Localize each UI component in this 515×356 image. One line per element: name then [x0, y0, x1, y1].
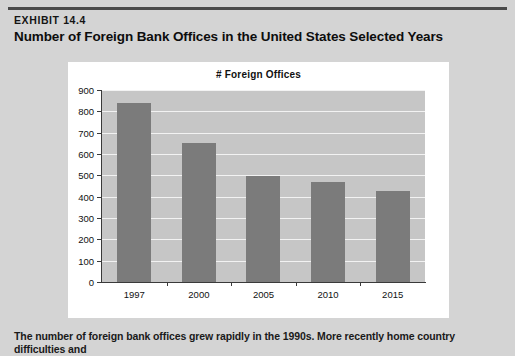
x-axis-label-1997: 1997	[102, 289, 167, 300]
x-axis-tick	[360, 282, 361, 286]
bar-slot	[167, 90, 232, 282]
bar-2015	[376, 191, 410, 282]
y-axis-label: 400	[78, 191, 94, 202]
bar-2010	[311, 182, 345, 282]
y-axis-label: 200	[78, 234, 94, 245]
bar-slot	[102, 90, 167, 282]
x-axis-line	[101, 282, 426, 283]
x-axis-label-2000: 2000	[167, 289, 232, 300]
y-axis-label: 900	[78, 85, 94, 96]
x-axis-tick	[296, 282, 297, 286]
y-axis-tick	[97, 90, 102, 91]
bar-1997	[117, 103, 151, 282]
x-axis-label-2010: 2010	[296, 289, 361, 300]
y-axis-label: 800	[78, 106, 94, 117]
bar-2005	[246, 176, 280, 282]
exhibit-header: EXHIBIT 14.4 Number of Foreign Bank Offi…	[14, 14, 504, 45]
y-axis-line	[101, 90, 102, 283]
x-axis-tick	[167, 282, 168, 286]
y-axis-tick	[97, 282, 102, 283]
y-axis-label: 500	[78, 170, 94, 181]
x-axis-labels: 19972000200520102015	[102, 289, 425, 300]
bar-slot	[231, 90, 296, 282]
bar-slot	[296, 90, 361, 282]
plot-wrapper: 0100200300400500600700800900 19972000200…	[102, 90, 425, 282]
y-axis-tick	[97, 261, 102, 262]
x-axis-label-2005: 2005	[231, 289, 296, 300]
x-axis-tick	[231, 282, 232, 286]
y-axis-label: 300	[78, 213, 94, 224]
y-axis-tick	[97, 197, 102, 198]
plot-area	[102, 90, 425, 282]
chart-card: # Foreign Offices 0100200300400500600700…	[68, 62, 449, 318]
y-axis-label: 600	[78, 149, 94, 160]
bar-series	[102, 90, 425, 282]
y-axis-label: 100	[78, 255, 94, 266]
bar-slot	[360, 90, 425, 282]
chart-title: # Foreign Offices	[68, 69, 449, 80]
y-axis-tick	[97, 154, 102, 155]
bar-2000	[182, 143, 216, 282]
exhibit-number: EXHIBIT 14.4	[14, 14, 504, 27]
y-axis-tick	[97, 111, 102, 112]
x-axis-label-2015: 2015	[360, 289, 425, 300]
y-axis-label: 0	[89, 277, 94, 288]
header-rule	[8, 7, 507, 10]
y-axis-tick	[97, 133, 102, 134]
y-axis-tick	[97, 218, 102, 219]
exhibit-title: Number of Foreign Bank Offices in the Un…	[14, 28, 504, 45]
y-axis-tick	[97, 175, 102, 176]
y-axis-label: 700	[78, 127, 94, 138]
figure-caption: The number of foreign bank offices grew …	[14, 330, 506, 356]
y-axis-tick	[97, 239, 102, 240]
